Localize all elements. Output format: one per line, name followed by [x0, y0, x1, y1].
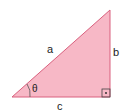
triangle-diagram [0, 0, 125, 112]
label-hypotenuse: a [47, 44, 53, 55]
label-vertical-side: b [113, 47, 119, 58]
label-angle: θ [32, 84, 38, 94]
label-base: c [57, 101, 63, 112]
right-triangle [12, 10, 110, 97]
right-angle-dot [105, 92, 107, 94]
